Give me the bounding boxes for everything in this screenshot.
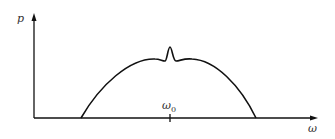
y-axis-arrow-icon [32, 13, 37, 21]
omega0-label: ω0 [162, 99, 176, 114]
omega0-subscript: 0 [171, 105, 176, 114]
x-axis-arrow-icon [310, 116, 318, 121]
spectrum-diagram [0, 0, 335, 139]
y-axis-label: p [17, 12, 24, 25]
omega0-symbol: ω [162, 99, 171, 112]
x-axis-label: ω [308, 122, 317, 135]
